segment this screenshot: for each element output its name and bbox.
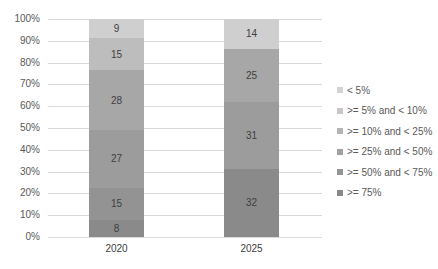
data-label: 8 <box>114 223 120 234</box>
bar-segment: 8 <box>89 220 144 237</box>
y-axis-tick-label: 40% <box>0 144 40 156</box>
legend-label: >= 5% and < 10% <box>347 105 427 116</box>
bar-segment: 28 <box>89 70 144 130</box>
data-label: 28 <box>111 95 122 106</box>
legend-swatch-icon <box>337 108 343 114</box>
x-axis-tick-label: 2020 <box>87 243 147 254</box>
data-label: 14 <box>246 28 257 39</box>
legend-label: >= 75% <box>347 187 381 198</box>
gridline <box>48 237 322 238</box>
legend-label: < 5% <box>347 85 370 96</box>
y-axis-tick-label: 10% <box>0 209 40 221</box>
data-label: 31 <box>246 130 257 141</box>
y-axis-tick-label: 70% <box>0 78 40 90</box>
y-axis-tick-label: 30% <box>0 166 40 178</box>
bar-segment: 15 <box>89 38 144 70</box>
data-label: 27 <box>111 153 122 164</box>
legend-item: >= 10% and < 25% <box>337 121 432 142</box>
data-label: 32 <box>246 197 257 208</box>
legend-swatch-icon <box>337 87 343 93</box>
legend-swatch-icon <box>337 149 343 155</box>
legend-label: >= 50% and < 75% <box>347 167 432 178</box>
x-axis-tick-label: 2025 <box>222 243 282 254</box>
data-label: 15 <box>111 49 122 60</box>
legend-swatch-icon <box>337 169 343 175</box>
legend-item: >= 50% and < 75% <box>337 162 432 183</box>
bar-segment: 9 <box>89 19 144 38</box>
stacked-bar-chart: 0%10%20%30%40%50%60%70%80%90%100%8152728… <box>0 0 438 269</box>
y-axis-tick-label: 20% <box>0 187 40 199</box>
y-axis-tick-label: 50% <box>0 122 40 134</box>
bar-segment: 27 <box>89 130 144 188</box>
y-axis-tick-label: 0% <box>0 231 40 243</box>
bar-segment: 25 <box>224 49 279 102</box>
legend: < 5%>= 5% and < 10%>= 10% and < 25%>= 25… <box>337 80 432 203</box>
legend-swatch-icon <box>337 128 343 134</box>
bar-segment: 31 <box>224 102 279 168</box>
data-label: 25 <box>246 70 257 81</box>
bar-segment: 14 <box>224 19 279 49</box>
legend-item: < 5% <box>337 80 432 101</box>
legend-label: >= 10% and < 25% <box>347 126 432 137</box>
bar-2025: 32312514 <box>224 19 279 237</box>
legend-item: >= 75% <box>337 183 432 204</box>
legend-item: >= 5% and < 10% <box>337 101 432 122</box>
legend-label: >= 25% and < 50% <box>347 146 432 157</box>
legend-item: >= 25% and < 50% <box>337 142 432 163</box>
y-axis-tick-label: 60% <box>0 100 40 112</box>
data-label: 15 <box>111 198 122 209</box>
bar-segment: 32 <box>224 169 279 237</box>
y-axis-tick-label: 80% <box>0 57 40 69</box>
y-axis-tick-label: 100% <box>0 13 40 25</box>
bar-2020: 8152728159 <box>89 19 144 237</box>
legend-swatch-icon <box>337 190 343 196</box>
y-axis-tick-label: 90% <box>0 35 40 47</box>
bar-segment: 15 <box>89 188 144 220</box>
data-label: 9 <box>114 23 120 34</box>
